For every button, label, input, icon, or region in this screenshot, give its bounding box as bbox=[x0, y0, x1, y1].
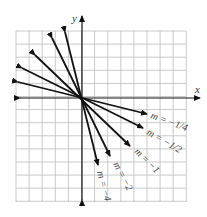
slope-label: m = −4 bbox=[95, 170, 114, 203]
slope-label: m = −2 bbox=[111, 160, 135, 192]
y-axis-label: y bbox=[71, 12, 77, 24]
x-axis-label: x bbox=[194, 83, 200, 95]
slope-diagram: x y m = −1/4m = −1/2m = −1m = −2m = −4 bbox=[0, 0, 207, 217]
slope-label: m = −1/2 bbox=[145, 126, 184, 155]
